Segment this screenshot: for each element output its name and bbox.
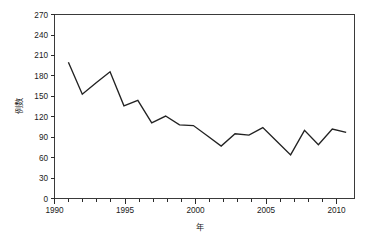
y-tick-marks (51, 15, 55, 199)
y-tick-labels: 270 240 210 180 150 120 90 60 30 0 (34, 11, 48, 204)
chart-figure: 270 240 210 180 150 120 90 60 30 0 (0, 0, 368, 243)
y-tick-label: 30 (39, 174, 49, 183)
data-series-line (68, 62, 346, 155)
x-tick-label: 1990 (45, 206, 64, 215)
x-tick-label: 2010 (327, 206, 346, 215)
y-tick-label: 210 (34, 51, 48, 60)
y-axis-title: 例数 (14, 98, 24, 114)
y-tick-label: 240 (34, 31, 48, 40)
x-axis-title: 年 (196, 222, 204, 232)
y-tick-label: 150 (34, 92, 48, 101)
x-tick-label: 2000 (186, 206, 205, 215)
plot-area-frame (55, 15, 355, 199)
y-tick-label: 0 (43, 195, 48, 204)
x-tick-label: 2005 (257, 206, 276, 215)
line-chart: 270 240 210 180 150 120 90 60 30 0 (0, 0, 368, 243)
x-tick-labels: 1990 1995 2000 2005 2010 (45, 206, 346, 215)
y-tick-label: 90 (39, 133, 49, 142)
y-tick-label: 60 (39, 154, 49, 163)
y-tick-label: 180 (34, 72, 48, 81)
y-tick-label: 270 (34, 11, 48, 20)
x-tick-label: 1995 (116, 206, 135, 215)
y-tick-label: 120 (34, 113, 48, 122)
